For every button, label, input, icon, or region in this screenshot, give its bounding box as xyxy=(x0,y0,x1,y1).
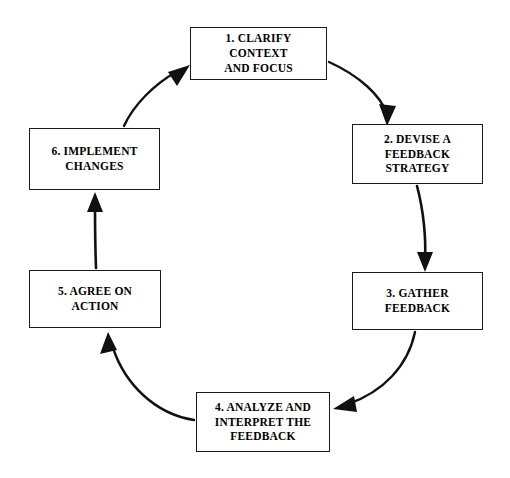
connector-clarify-to-devise xyxy=(329,62,396,126)
process-step-label: 2. DEVISE A FEEDBACK STRATEGY xyxy=(378,132,457,176)
process-step-label: 3. GATHER FEEDBACK xyxy=(379,286,457,315)
process-step-devise-feedback-strategy[interactable]: 2. DEVISE A FEEDBACK STRATEGY xyxy=(352,124,483,184)
process-step-implement-changes[interactable]: 6. IMPLEMENT CHANGES xyxy=(29,128,160,190)
process-step-gather-feedback[interactable]: 3. GATHER FEEDBACK xyxy=(352,272,483,330)
process-step-label: 1. CLARIFY CONTEXT AND FOCUS xyxy=(191,31,326,75)
connector-agree-to-implement xyxy=(87,192,103,268)
connector-gather-to-analyze xyxy=(333,332,415,412)
diagram-canvas: 1. CLARIFY CONTEXT AND FOCUS 2. DEVISE A… xyxy=(0,0,510,478)
process-step-analyze-interpret-feedback[interactable]: 4. ANALYZE AND INTERPRET THE FEEDBACK xyxy=(196,392,330,452)
process-step-label: 4. ANALYZE AND INTERPRET THE FEEDBACK xyxy=(209,400,317,444)
process-step-clarify-context[interactable]: 1. CLARIFY CONTEXT AND FOCUS xyxy=(190,27,327,80)
process-step-label: 6. IMPLEMENT CHANGES xyxy=(45,144,143,173)
connector-devise-to-gather xyxy=(417,186,433,272)
process-step-label: 5. AGREE ON ACTION xyxy=(52,284,138,313)
connector-analyze-to-agree xyxy=(100,332,194,420)
process-step-agree-on-action[interactable]: 5. AGREE ON ACTION xyxy=(29,270,161,328)
connector-implement-to-clarify xyxy=(124,65,190,126)
